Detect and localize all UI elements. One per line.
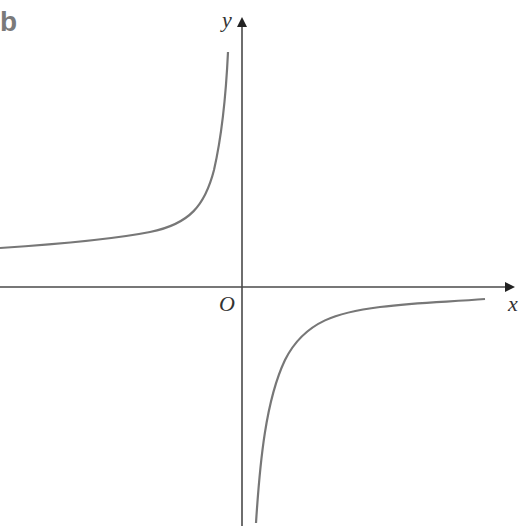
curve-branch-upper-left <box>0 52 228 248</box>
origin-label: O <box>219 291 235 316</box>
curve-branch-lower-right <box>256 299 485 523</box>
y-axis-label: y <box>220 7 232 32</box>
x-axis-label: x <box>507 291 518 316</box>
hyperbola-graph: y x O <box>0 0 520 526</box>
